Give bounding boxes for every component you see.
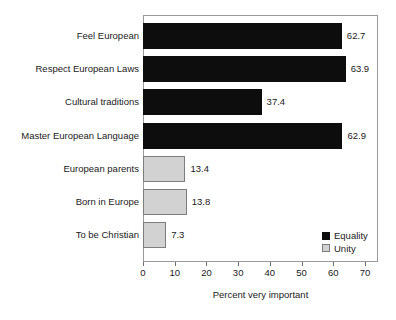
bar-value-label: 63.9 [351,64,370,74]
category-label: European parents [63,164,139,174]
legend-item: Unity [322,244,368,254]
x-axis-tick-label: 20 [201,268,212,278]
x-axis-tick-label: 60 [328,268,339,278]
category-label: Respect European Laws [35,64,139,74]
bar [143,156,185,182]
bar [143,89,262,115]
x-axis-tick-mark [365,262,366,266]
bar-value-label: 7.3 [171,230,184,240]
x-axis-title: Percent very important [143,289,378,300]
x-axis-tick-label: 40 [265,268,276,278]
category-label: To be Christian [76,230,139,240]
bar [143,23,342,49]
x-axis-tick-mark [175,262,176,266]
category-label: Feel European [77,31,139,41]
x-axis-tick-mark [333,262,334,266]
legend-label: Unity [334,244,356,254]
legend-swatch-icon [322,232,330,240]
x-axis-tick-label: 70 [360,268,371,278]
x-axis-tick-mark [238,262,239,266]
bar-value-label: 13.8 [192,197,211,207]
category-label: Cultural traditions [65,97,139,107]
bar [143,189,187,215]
bar-value-label: 37.4 [267,97,286,107]
x-axis-tick-label: 0 [140,268,145,278]
bar [143,123,342,149]
category-label: Master European Language [21,131,139,141]
x-axis-tick-mark [302,262,303,266]
x-axis-tick-mark [206,262,207,266]
x-axis-tick-label: 30 [233,268,244,278]
bar [143,222,166,248]
bar-value-label: 13.4 [190,164,209,174]
legend-label: Equality [334,231,368,241]
x-axis-tick-label: 10 [169,268,180,278]
bar-value-label: 62.9 [347,131,366,141]
chart-legend: EqualityUnity [322,231,368,256]
legend-swatch-icon [322,244,330,252]
bar-chart-figure: Feel EuropeanRespect European LawsCultur… [0,0,396,320]
legend-item: Equality [322,231,368,241]
x-axis-tick-label: 50 [296,268,307,278]
category-label: Born in Europe [76,197,139,207]
bar-value-label: 62.7 [347,31,366,41]
bar [143,56,346,82]
x-axis-tick-mark [143,262,144,266]
x-axis-tick-mark [270,262,271,266]
